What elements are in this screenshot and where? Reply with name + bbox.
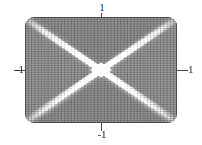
y-axis-tick-label-top: 1 [95,2,109,13]
x-axis-tick-label-right: 1 [188,64,200,75]
surface-mesh-canvas [25,17,177,123]
y-axis-tick-label-bottom: -1 [93,129,111,140]
plot-frame [25,17,177,123]
figure-3d-surface-plot: 1 -1 -1 1 [0,0,202,145]
x-axis-tick-label-left: -1 [8,64,24,75]
